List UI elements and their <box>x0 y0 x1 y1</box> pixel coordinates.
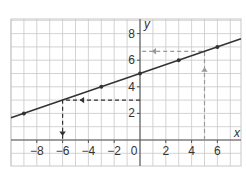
y-tick-label: 6 <box>128 53 135 67</box>
arrowhead <box>80 97 84 103</box>
data-point <box>177 58 181 62</box>
y-axis-label: y <box>143 17 151 31</box>
data-point <box>22 111 26 115</box>
y-tick-label: 4 <box>128 80 135 94</box>
labels: −8−6−4−202462468xy <box>30 17 241 158</box>
arrowhead <box>152 48 156 54</box>
grid <box>11 19 241 166</box>
axes <box>11 19 241 166</box>
y-tick-label: 8 <box>128 27 135 41</box>
series-line <box>11 39 241 118</box>
data-point <box>215 45 219 49</box>
x-tick-label: 2 <box>162 144 169 158</box>
x-tick-label: −6 <box>56 144 70 158</box>
x-tick-label: −4 <box>82 144 96 158</box>
y-tick-label: 2 <box>128 106 135 120</box>
data-point <box>99 85 103 89</box>
grid-border <box>11 19 241 166</box>
x-tick-label: −2 <box>107 144 121 158</box>
x-axis-label: x <box>233 126 241 140</box>
arrowhead <box>59 132 65 136</box>
series <box>11 39 241 118</box>
chart: −8−6−4−202462468xy <box>0 0 246 174</box>
data-point <box>138 72 142 76</box>
x-tick-label: 4 <box>188 144 195 158</box>
x-tick-label: −8 <box>30 144 44 158</box>
arrowhead <box>201 67 207 71</box>
x-tick-label: 0 <box>131 144 138 158</box>
x-tick-label: 6 <box>214 144 221 158</box>
